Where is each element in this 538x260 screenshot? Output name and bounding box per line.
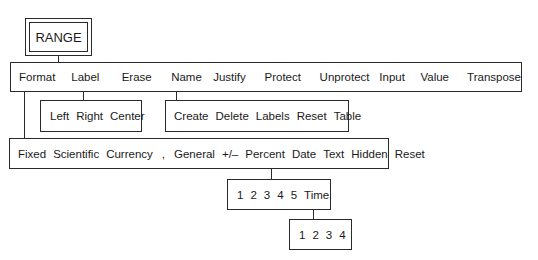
format-item-general[interactable]: General: [174, 148, 215, 160]
label-item-center[interactable]: Center: [110, 110, 145, 122]
connector-label-submenu: [83, 92, 84, 100]
date-submenu: 1 2 3 4 5 Time: [227, 179, 331, 210]
format-item-currency[interactable]: Currency: [106, 148, 153, 160]
format-item-hidden[interactable]: Hidden: [351, 148, 387, 160]
menu-item-name[interactable]: Name: [171, 71, 213, 83]
date-item-time[interactable]: Time: [304, 189, 329, 201]
label-submenu: Left Right Center: [40, 100, 142, 132]
range-menubar: Format Label Erase Name Justify Protect …: [10, 62, 522, 92]
menu-item-label[interactable]: Label: [71, 71, 121, 83]
menu-item-justify[interactable]: Justify: [213, 71, 264, 83]
menu-item-format[interactable]: Format: [19, 71, 71, 83]
date-item-5[interactable]: 5: [291, 189, 297, 201]
name-item-reset[interactable]: Reset: [297, 110, 327, 122]
date-item-3[interactable]: 3: [264, 189, 270, 201]
format-item-text[interactable]: Text: [323, 148, 344, 160]
format-item-reset[interactable]: Reset: [395, 148, 425, 160]
format-item-date[interactable]: Date: [292, 148, 316, 160]
format-item-fixed[interactable]: Fixed: [18, 148, 46, 160]
menu-item-value[interactable]: Value: [420, 71, 467, 83]
format-item-plus-minus[interactable]: +/–: [222, 148, 238, 160]
name-item-create[interactable]: Create: [174, 110, 209, 122]
date-item-2[interactable]: 2: [250, 189, 256, 201]
connector-name-submenu: [176, 92, 177, 100]
connector-format-submenu: [24, 92, 25, 138]
date-item-4[interactable]: 4: [277, 189, 283, 201]
time-item-3[interactable]: 3: [326, 229, 332, 241]
name-item-delete[interactable]: Delete: [216, 110, 249, 122]
root-label: RANGE: [35, 30, 81, 45]
menu-item-unprotect[interactable]: Unprotect: [320, 71, 380, 83]
connector-date-submenu: [271, 169, 272, 179]
time-item-4[interactable]: 4: [339, 229, 345, 241]
time-submenu: 1 2 3 4: [289, 219, 352, 250]
format-item-percent[interactable]: Percent: [245, 148, 285, 160]
format-item-comma[interactable]: ,: [162, 148, 165, 160]
date-item-1[interactable]: 1: [237, 189, 243, 201]
format-item-scientific[interactable]: Scientific: [53, 148, 99, 160]
format-submenu: Fixed Scientific Currency , General +/– …: [9, 138, 389, 169]
menu-item-transpose[interactable]: Transpose: [467, 71, 521, 83]
menu-item-protect[interactable]: Protect: [265, 71, 320, 83]
name-item-labels[interactable]: Labels: [256, 110, 290, 122]
label-item-left[interactable]: Left: [50, 110, 69, 122]
menu-item-input[interactable]: Input: [379, 71, 420, 83]
name-submenu: Create Delete Labels Reset Table: [165, 100, 349, 132]
root-node-range[interactable]: RANGE: [29, 22, 88, 52]
label-item-right[interactable]: Right: [76, 110, 103, 122]
menu-item-erase[interactable]: Erase: [122, 71, 171, 83]
connector-time-submenu: [313, 210, 314, 219]
time-item-1[interactable]: 1: [299, 229, 305, 241]
time-item-2[interactable]: 2: [312, 229, 318, 241]
name-item-table[interactable]: Table: [334, 110, 362, 122]
